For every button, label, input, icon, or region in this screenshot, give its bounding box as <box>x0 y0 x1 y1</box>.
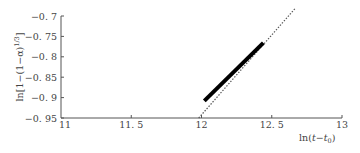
y-tick-label: −0. 75 <box>25 31 57 42</box>
data-line-thick <box>204 43 263 101</box>
y-tick-label: −0. 9 <box>31 92 57 103</box>
y-ticks: −0. 7−0. 75−0. 8−0. 85−0. 9−0. 95 <box>25 11 64 124</box>
y-tick-label: −0. 85 <box>25 72 57 83</box>
x-tick-label: 11. 5 <box>119 119 143 130</box>
x-tick-label: 13 <box>336 119 348 130</box>
y-tick-label: −0. 95 <box>25 113 57 124</box>
x-tick-label: 12. 5 <box>260 119 284 130</box>
y-tick-label: −0. 8 <box>31 51 57 62</box>
x-tick-label: 12 <box>195 119 207 130</box>
x-ticks: 1111. 51212. 513 <box>59 115 348 130</box>
y-axis-label: ln[1−(1−α)1/3] <box>13 33 25 102</box>
chart: −0. 7−0. 75−0. 8−0. 85−0. 9−0. 95 1111. … <box>0 0 360 153</box>
y-tick-label: −0. 7 <box>31 11 57 22</box>
fit-line-dotted <box>199 8 296 118</box>
x-axis-label: ln(t−t0) <box>299 132 335 145</box>
x-tick-label: 11 <box>59 119 71 130</box>
